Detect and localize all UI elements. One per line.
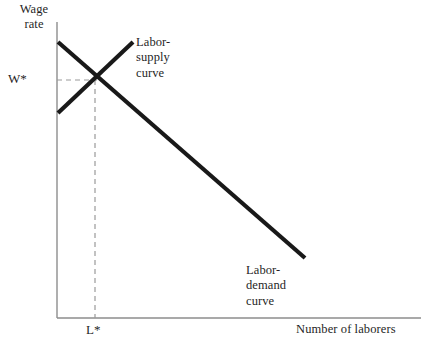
plot-area bbox=[0, 0, 425, 352]
labor-market-diagram: Wage rate Number of laborers W* L* Labor… bbox=[0, 0, 425, 352]
quantity-equilibrium-tick-label: L* bbox=[86, 322, 101, 338]
labor-demand-curve-label: Labor- demand curve bbox=[246, 263, 286, 309]
y-axis-title: Wage rate bbox=[6, 2, 62, 33]
wage-equilibrium-tick-label: W* bbox=[8, 71, 27, 87]
x-axis-title: Number of laborers bbox=[296, 322, 396, 337]
labor-supply-curve-label: Labor- supply curve bbox=[136, 35, 170, 81]
